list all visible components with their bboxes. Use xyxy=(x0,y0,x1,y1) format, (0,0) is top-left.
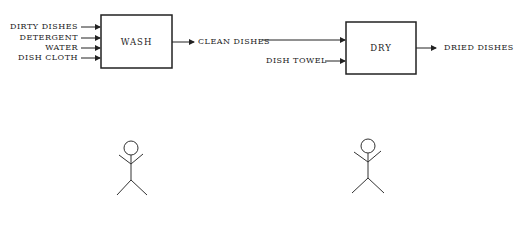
input-label-dish-cloth: DISH CLOTH xyxy=(0,53,78,63)
input-label-detergent: DETERGENT xyxy=(0,33,78,43)
output-label-clean-dishes: CLEAN DISHES xyxy=(198,37,270,47)
output-label-dried-dishes: DRIED DISHES xyxy=(444,43,514,53)
dry-process-label: DRY xyxy=(346,43,416,53)
input-label-dish-towel: DISH TOWEL xyxy=(266,56,327,66)
stick-figure-icon xyxy=(352,139,384,193)
input-label-dirty-dishes: DIRTY DISHES xyxy=(0,22,78,32)
process-diagram: DIRTY DISHES DETERGENT WATER DISH CLOTH … xyxy=(0,0,515,227)
input-label-water: WATER xyxy=(0,43,78,53)
stick-figure-icon xyxy=(117,141,147,195)
wash-process-label: WASH xyxy=(101,37,172,47)
